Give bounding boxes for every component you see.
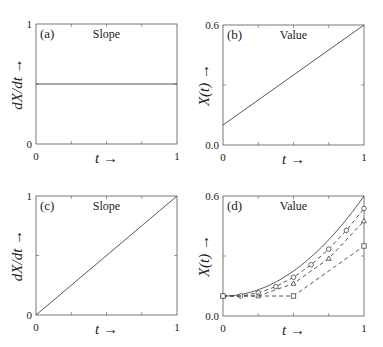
y-tick-min: 0	[27, 138, 33, 150]
x-tick-min: 0	[220, 151, 226, 163]
triangle-marker	[362, 218, 367, 222]
circle-marker	[309, 262, 314, 267]
y-tick-max: 1	[27, 18, 33, 30]
x-axis-label: t →	[95, 150, 118, 166]
panel-title: Slope	[93, 27, 120, 41]
circle-marker	[362, 206, 367, 211]
panel-label: (b)	[227, 27, 242, 42]
series-line	[36, 196, 177, 315]
x-axis-label: t →	[282, 151, 305, 167]
y-tick-min: 0.0	[205, 310, 219, 322]
square-marker	[362, 244, 366, 248]
x-axis-label: t →	[95, 321, 118, 337]
y-axis-label: dX/dt →	[9, 58, 25, 109]
panel-c: 0101t →dX/dt →(c)Slope	[9, 190, 180, 337]
x-axis-label: t →	[282, 322, 305, 338]
panel-title: Value	[280, 199, 307, 213]
x-tick-max: 1	[174, 150, 180, 162]
triangle-marker	[291, 281, 296, 285]
circle-marker	[274, 284, 279, 289]
circle-marker	[344, 228, 349, 233]
y-tick-min: 0	[27, 309, 33, 321]
y-tick-max: 0.6	[205, 19, 219, 31]
triangle-marker	[326, 256, 331, 260]
circle-marker	[291, 275, 296, 280]
panel-b: 0.00.601t →X(t) →(b)Value	[196, 19, 367, 167]
y-axis-label: X(t) →	[196, 235, 213, 278]
square-marker	[221, 294, 225, 298]
plot-frame	[223, 25, 364, 145]
x-tick-max: 1	[361, 151, 367, 163]
x-tick-min: 0	[220, 322, 226, 334]
chart-figure: 0101t →dX/dt →(a)Slope0.00.601t →X(t) →(…	[0, 0, 383, 347]
square-marker	[291, 294, 295, 298]
x-tick-max: 1	[174, 321, 180, 333]
x-tick-max: 1	[361, 322, 367, 334]
x-tick-min: 0	[33, 321, 39, 333]
panel-title: Slope	[93, 199, 120, 213]
panel-title: Value	[280, 28, 307, 42]
panel-label: (c)	[40, 198, 54, 213]
y-tick-min: 0.0	[205, 139, 219, 151]
panel-label: (d)	[227, 198, 242, 213]
y-axis-label: X(t) →	[196, 64, 213, 107]
y-tick-max: 0.6	[205, 190, 219, 202]
x-tick-min: 0	[33, 150, 39, 162]
y-tick-max: 1	[27, 190, 33, 202]
circle-marker	[326, 247, 331, 252]
panel-d: 0.00.601t →X(t) →(d)Value	[196, 190, 367, 338]
panel-a: 0101t →dX/dt →(a)Slope	[9, 18, 180, 166]
y-axis-label: dX/dt →	[9, 230, 25, 281]
panel-label: (a)	[40, 26, 54, 41]
